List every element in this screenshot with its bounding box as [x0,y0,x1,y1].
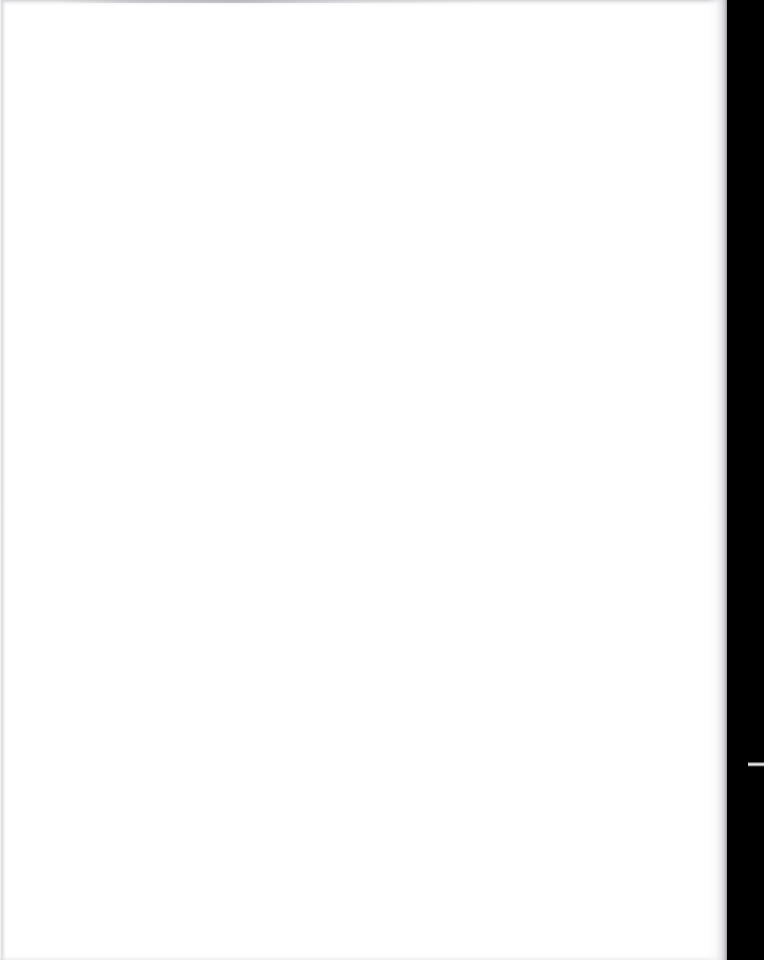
page-edge-shadow [707,0,727,960]
scan-artifact-dash-icon [748,762,764,767]
scanner-bed-band [727,0,764,960]
scan-edge-top-artifact [0,0,727,7]
page-content [6,6,721,954]
scan-edge-bottom-artifact [0,954,727,960]
page-sheet [0,0,727,960]
scan-edge-left-artifact [0,0,6,960]
scan-canvas [0,0,764,960]
